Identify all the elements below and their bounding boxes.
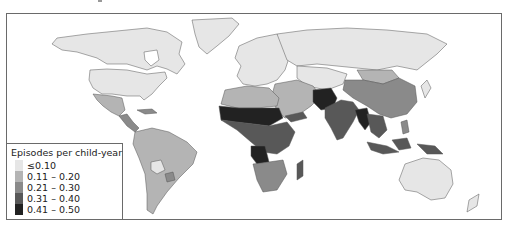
legend-item: ≤0.10 xyxy=(11,160,118,171)
region-philippines xyxy=(401,120,409,134)
region-greenland xyxy=(192,18,239,54)
region-indonesia xyxy=(367,138,411,154)
region-canada xyxy=(52,28,185,74)
legend-swatch xyxy=(15,193,23,204)
legend-title: Episodes per child-year xyxy=(11,147,118,158)
region-mexico xyxy=(93,94,125,116)
legend-label: 0.11 – 0.20 xyxy=(27,171,80,182)
legend-swatch xyxy=(15,160,23,171)
region-new-zealand xyxy=(467,194,479,212)
legend-label: ≤0.10 xyxy=(27,160,56,171)
region-southern-africa xyxy=(253,160,287,192)
legend-item: 0.31 – 0.40 xyxy=(11,193,118,204)
legend-label: 0.41 – 0.50 xyxy=(27,204,80,215)
legend-item: 0.41 – 0.50 xyxy=(11,204,118,215)
region-russia xyxy=(277,28,447,70)
legend-label: 0.21 – 0.30 xyxy=(27,182,80,193)
legend-item: 0.11 – 0.20 xyxy=(11,171,118,182)
legend-item: 0.21 – 0.30 xyxy=(11,182,118,193)
region-india xyxy=(325,100,359,140)
region-central-america xyxy=(119,114,139,132)
legend-swatch xyxy=(15,204,23,215)
figure-top-mark xyxy=(98,0,102,2)
region-madagascar xyxy=(297,160,303,180)
region-australia xyxy=(399,158,453,200)
map-legend: Episodes per child-year ≤0.10 0.11 – 0.2… xyxy=(6,143,123,220)
region-southeast-asia xyxy=(367,114,387,138)
region-caribbean xyxy=(137,109,157,114)
legend-swatch xyxy=(15,171,23,182)
region-papua xyxy=(417,144,443,154)
region-north-africa xyxy=(221,86,279,108)
legend-swatch xyxy=(15,182,23,193)
region-paraguay xyxy=(165,172,175,182)
region-south-america xyxy=(133,128,197,214)
legend-label: 0.31 – 0.40 xyxy=(27,193,80,204)
region-japan xyxy=(421,80,431,98)
